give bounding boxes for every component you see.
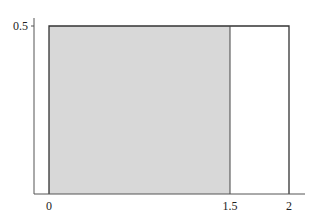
y-tick-label: 0.5 bbox=[13, 19, 28, 33]
shaded-area bbox=[49, 26, 230, 194]
x-tick-label-2: 2 bbox=[286, 199, 292, 213]
uniform-density-chart: 0.5 0 1.5 2 bbox=[0, 0, 317, 216]
x-tick-label-0: 0 bbox=[46, 199, 52, 213]
x-tick-label-1-5: 1.5 bbox=[223, 199, 238, 213]
